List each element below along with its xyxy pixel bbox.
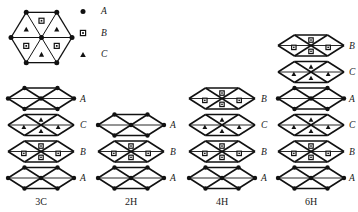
layer-edge — [328, 88, 345, 99]
stack-caption-6H: 6H — [305, 196, 317, 207]
sector-square-symbol — [24, 43, 29, 48]
layer-edge — [189, 178, 206, 189]
layer-node-circle — [22, 165, 26, 169]
layer-edge — [58, 88, 75, 99]
layer-edge — [98, 115, 115, 126]
stack-caption-2H: 2H — [125, 196, 137, 207]
layer-node-circle — [39, 176, 43, 180]
layer-triangle-symbol — [39, 117, 44, 121]
polytype-stack-2H: ABA2H — [96, 112, 176, 207]
layer-edge — [328, 35, 345, 46]
square-center-dot — [40, 157, 41, 158]
square-center-dot — [310, 51, 311, 52]
layer-node-circle — [129, 123, 133, 127]
polytype-stack-6H: BCACBA6H — [276, 35, 356, 207]
stack-layer-A — [276, 165, 346, 190]
stack-layer-A — [6, 86, 76, 111]
stack-layer-A — [187, 165, 257, 190]
stack-layer-A — [6, 165, 76, 190]
layer-edge — [98, 168, 115, 179]
layer-edge — [278, 178, 295, 189]
layer-label: A — [169, 120, 176, 130]
legend-label: B — [101, 28, 107, 38]
layer-square-symbol — [220, 144, 224, 148]
stack-caption-4H: 4H — [216, 196, 228, 207]
layer-label: B — [261, 147, 267, 157]
layer-edge — [239, 178, 256, 189]
legend-item: C — [80, 49, 108, 59]
layer-node-circle — [129, 176, 133, 180]
layer-edge — [148, 141, 165, 152]
layer-square-symbol — [237, 98, 241, 102]
square-center-dot — [238, 153, 239, 154]
layer-edge — [8, 141, 25, 152]
layer-node-circle — [22, 186, 26, 190]
layer-label: A — [260, 173, 267, 183]
legend-triangle-icon — [80, 52, 86, 57]
layer-node-circle — [220, 176, 224, 180]
sector-square-symbol — [54, 43, 59, 48]
polytype-stack-3C: ACBA3C — [6, 86, 87, 207]
layer-node-circle — [236, 186, 240, 190]
layer-edge — [239, 125, 256, 136]
hexagon-vertex-node — [54, 10, 59, 15]
hexagon-spoke — [26, 38, 41, 63]
hexagon-edge — [11, 12, 26, 37]
layer-edge — [148, 168, 165, 179]
layer-node-circle — [325, 86, 329, 90]
stack-layer-C — [278, 62, 344, 83]
layer-edge — [328, 62, 345, 73]
layer-triangle-symbol — [39, 129, 44, 133]
layer-node-circle — [325, 186, 329, 190]
hexagon-spoke — [26, 12, 41, 37]
layer-label: B — [349, 147, 355, 157]
legend-item: A — [81, 6, 108, 16]
layer-node-circle — [325, 107, 329, 111]
layer-node-circle — [187, 176, 191, 180]
square-center-dot — [310, 157, 311, 158]
legend-square-icon — [80, 30, 85, 35]
stack-caption-3C: 3C — [35, 196, 47, 207]
layer-edge — [239, 115, 256, 126]
square-center-dot — [221, 92, 222, 93]
layer-edge — [58, 115, 75, 126]
layer-square-symbol — [326, 45, 330, 49]
layer-node-circle — [203, 165, 207, 169]
layer-square-symbol — [220, 102, 224, 106]
layer-node-circle — [112, 133, 116, 137]
layer-node-circle — [72, 96, 76, 100]
layer-node-circle — [22, 107, 26, 111]
layer-square-symbol — [39, 144, 43, 148]
stack-layer-A — [96, 165, 166, 190]
layer-node-circle — [309, 176, 313, 180]
sector-triangle-symbol — [54, 27, 59, 32]
layer-triangle-symbol — [309, 76, 314, 80]
layer-node-circle — [145, 133, 149, 137]
hexagon-vertex-node — [9, 35, 14, 40]
square-center-dot — [40, 145, 41, 146]
layer-edge — [8, 99, 25, 110]
legend-circle-icon — [81, 9, 86, 14]
layer-label: C — [349, 120, 356, 130]
layer-node-circle — [309, 96, 313, 100]
layer-edge — [8, 178, 25, 189]
legend-label: C — [101, 49, 108, 59]
hexagon-spoke — [42, 12, 57, 37]
layer-node-circle — [145, 186, 149, 190]
layer-edge — [98, 125, 115, 136]
figure-canvas: ABC ACBA3CABA2HBCBA4HBCACBA6H — [0, 0, 358, 212]
hexagon-edge — [57, 12, 72, 37]
layer-square-symbol — [326, 151, 330, 155]
layer-triangle-symbol — [220, 117, 225, 121]
square-center-dot — [221, 157, 222, 158]
layer-edge — [278, 141, 295, 152]
layer-edge — [328, 141, 345, 152]
layer-node-circle — [39, 96, 43, 100]
layer-label: A — [79, 94, 86, 104]
layer-node-circle — [112, 112, 116, 116]
layer-edge — [148, 115, 165, 126]
layer-edge — [278, 62, 295, 73]
layer-label: B — [261, 94, 267, 104]
layer-node-circle — [55, 165, 59, 169]
hexagon-edge — [11, 38, 26, 63]
